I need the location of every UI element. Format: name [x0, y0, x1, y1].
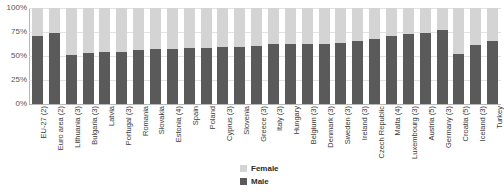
bar-column[interactable]: [453, 8, 464, 104]
bar-column[interactable]: [32, 8, 43, 104]
bar-column[interactable]: [319, 8, 330, 104]
bar-segment-male[interactable]: [352, 41, 363, 104]
bar-segment-female[interactable]: [167, 8, 178, 49]
bar-column[interactable]: [201, 8, 212, 104]
bar-segment-female[interactable]: [285, 8, 296, 44]
bar-segment-female[interactable]: [99, 8, 110, 52]
bar-segment-male[interactable]: [268, 44, 279, 104]
bar-segment-female[interactable]: [369, 8, 380, 39]
bar-segment-female[interactable]: [133, 8, 144, 50]
bar-segment-male[interactable]: [302, 44, 313, 104]
bar-column[interactable]: [234, 8, 245, 104]
bar-segment-female[interactable]: [453, 8, 464, 54]
bar-segment-male[interactable]: [335, 43, 346, 104]
bar-segment-male[interactable]: [99, 52, 110, 104]
bar-segment-female[interactable]: [150, 8, 161, 49]
bar-column[interactable]: [403, 8, 414, 104]
legend-item-male[interactable]: Male: [240, 176, 360, 187]
bar-segment-female[interactable]: [268, 8, 279, 44]
x-axis-label: Spain: [192, 106, 200, 125]
bar-segment-male[interactable]: [217, 47, 228, 104]
bar-segment-male[interactable]: [453, 54, 464, 104]
bar-column[interactable]: [116, 8, 127, 104]
bar-segment-female[interactable]: [470, 8, 481, 45]
bar-segment-female[interactable]: [49, 8, 60, 33]
bar-segment-female[interactable]: [487, 8, 498, 41]
bar-column[interactable]: [251, 8, 262, 104]
bar-segment-male[interactable]: [83, 53, 94, 104]
bar-segment-female[interactable]: [251, 8, 262, 46]
bar-segment-female[interactable]: [201, 8, 212, 48]
bar-column[interactable]: [285, 8, 296, 104]
bar-column[interactable]: [167, 8, 178, 104]
bar-segment-male[interactable]: [66, 55, 77, 104]
bar-column[interactable]: [83, 8, 94, 104]
bar-segment-female[interactable]: [437, 8, 448, 30]
bar-column[interactable]: [268, 8, 279, 104]
bar-segment-female[interactable]: [335, 8, 346, 43]
bar-segment-male[interactable]: [49, 33, 60, 104]
bar-segment-male[interactable]: [403, 34, 414, 104]
bar-column[interactable]: [352, 8, 363, 104]
bar-segment-male[interactable]: [437, 30, 448, 104]
bar-segment-male[interactable]: [167, 49, 178, 104]
bar-segment-female[interactable]: [32, 8, 43, 36]
bar-segment-male[interactable]: [285, 44, 296, 104]
bar-segment-male[interactable]: [150, 49, 161, 104]
bar-segment-male[interactable]: [470, 45, 481, 104]
x-axis-label: Estonia (4): [175, 106, 183, 142]
bar-column[interactable]: [133, 8, 144, 104]
bar-segment-female[interactable]: [352, 8, 363, 41]
bar-column[interactable]: [66, 8, 77, 104]
bar-column[interactable]: [302, 8, 313, 104]
legend-swatch-icon: [240, 165, 247, 172]
bar-column[interactable]: [49, 8, 60, 104]
y-axis-tick-25pct: 25%: [0, 76, 27, 84]
legend-item-female[interactable]: Female: [240, 163, 360, 174]
legend-label: Female: [251, 165, 279, 173]
x-axis-label: Poland: [209, 106, 217, 129]
bar-segment-female[interactable]: [319, 8, 330, 44]
bar-segment-male[interactable]: [133, 50, 144, 104]
y-axis-tick-labels: 0%25%50%75%100%: [0, 0, 27, 112]
bar-segment-male[interactable]: [234, 47, 245, 104]
bar-column[interactable]: [335, 8, 346, 104]
bar-segment-female[interactable]: [420, 8, 431, 33]
bar-segment-female[interactable]: [66, 8, 77, 55]
bar-column[interactable]: [437, 8, 448, 104]
bar-segment-male[interactable]: [251, 46, 262, 104]
bar-column[interactable]: [369, 8, 380, 104]
bar-column[interactable]: [99, 8, 110, 104]
bar-segment-male[interactable]: [386, 36, 397, 104]
bar-column[interactable]: [217, 8, 228, 104]
x-axis-label: Romania: [142, 106, 150, 136]
bar-segment-female[interactable]: [234, 8, 245, 47]
bar-column[interactable]: [184, 8, 195, 104]
bar-segment-male[interactable]: [116, 52, 127, 104]
bar-segment-female[interactable]: [386, 8, 397, 36]
bar-segment-male[interactable]: [319, 44, 330, 104]
bar-segment-female[interactable]: [302, 8, 313, 44]
bar-segment-male[interactable]: [420, 33, 431, 104]
bar-segment-male[interactable]: [201, 48, 212, 104]
bar-segment-female[interactable]: [83, 8, 94, 53]
bar-column[interactable]: [487, 8, 498, 104]
bar-segment-female[interactable]: [217, 8, 228, 47]
bar-column[interactable]: [150, 8, 161, 104]
bar-segment-female[interactable]: [116, 8, 127, 52]
x-axis-label: Cyprus (3): [226, 106, 234, 141]
bar-column[interactable]: [386, 8, 397, 104]
bar-segment-male[interactable]: [32, 36, 43, 104]
bar-column[interactable]: [470, 8, 481, 104]
x-axis-label: Euro area (2): [57, 106, 65, 150]
x-axis-label: Hungary: [293, 106, 301, 134]
bar-segment-female[interactable]: [184, 8, 195, 48]
bar-segment-female[interactable]: [403, 8, 414, 34]
x-axis-label: Malta (4): [394, 106, 402, 136]
bar-segment-male[interactable]: [184, 48, 195, 104]
x-axis-label: Germany (3): [445, 106, 453, 148]
legend-label: Male: [251, 178, 269, 186]
bar-segment-male[interactable]: [369, 39, 380, 104]
bar-segment-male[interactable]: [487, 41, 498, 104]
bar-column[interactable]: [420, 8, 431, 104]
